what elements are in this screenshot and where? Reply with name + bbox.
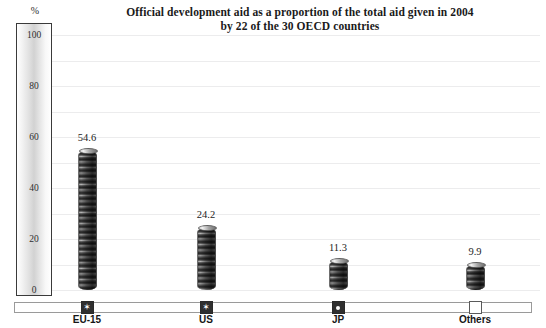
gridline [52,61,540,62]
x-axis-label-others: Others [435,314,515,325]
star-marker-icon: ✶ [200,301,213,314]
y-axis-bar [16,23,52,296]
gridline [52,112,540,113]
bar-value-label-others: 9.9 [445,246,505,257]
empty-square-marker-icon [469,301,482,314]
bar-value-label-jp: 11.3 [308,242,368,253]
chart-title-line-1: Official development aid as a proportion… [70,5,530,19]
x-axis-label-us: US [166,314,246,325]
gridline [52,137,540,138]
bar-top-cap [467,262,486,268]
y-axis-unit-label: % [22,5,48,16]
x-axis-label-eu-15: EU-15 [47,314,127,325]
dot-glyph [336,306,340,310]
bar-top-cap [79,148,98,154]
y-axis-tick-100: 100 [16,30,52,40]
dot-marker-icon [332,301,345,314]
y-axis-tick-40: 40 [16,183,52,193]
gridline [52,35,540,36]
bar-eu-15[interactable] [78,151,97,290]
bar-us[interactable] [197,228,216,290]
star-glyph: ✶ [202,303,210,312]
bar-top-cap [330,258,349,264]
star-marker-icon: ✶ [81,301,94,314]
gridline [52,86,540,87]
gridline [52,239,540,240]
x-axis-label-jp: JP [298,314,378,325]
y-axis-tick-60: 60 [16,132,52,142]
bar-jp[interactable] [329,261,348,290]
gridline [52,214,540,215]
gridline [52,163,540,164]
y-axis-tick-20: 20 [16,234,52,244]
bar-value-label-us: 24.2 [176,209,236,220]
star-glyph: ✶ [83,303,91,312]
gridline [52,188,540,189]
y-axis-tick-80: 80 [16,81,52,91]
y-axis-tick-0: 0 [16,285,52,295]
bar-value-label-eu-15: 54.6 [57,132,117,143]
chart-canvas: Official development aid as a proportion… [0,0,546,328]
gridline [52,290,540,291]
bar-others[interactable] [466,265,485,290]
bar-top-cap [198,225,217,231]
